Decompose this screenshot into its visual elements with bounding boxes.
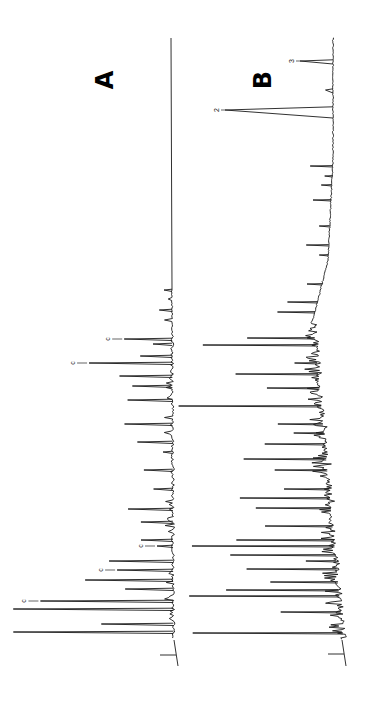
trace-a-peak [128, 399, 173, 401]
trace-a-peak [153, 343, 172, 345]
trace-b-peak [225, 107, 333, 118]
trace-a-peak [157, 545, 173, 547]
chromatogram-trace-a: ccccc [13, 38, 178, 666]
trace-b-peak [226, 590, 339, 591]
peak-label-c: c [104, 337, 111, 341]
trace-b-peak [319, 255, 328, 256]
trace-b-peak [247, 338, 314, 339]
trace-b-start [342, 640, 346, 666]
trace-b-peak [326, 89, 334, 93]
trace-a-peak [124, 338, 172, 340]
trace-b-peak [288, 302, 318, 303]
trace-b-peak [247, 569, 337, 570]
trace-b-peak [189, 596, 339, 597]
trace-b-peak [295, 363, 318, 364]
trace-a-peak [159, 309, 172, 311]
trace-b-peak [281, 612, 341, 613]
trace-b-peak [325, 176, 333, 177]
trace-a-peak [164, 289, 172, 291]
trace-a-peak [13, 608, 173, 610]
trace-a-start [174, 640, 178, 666]
trace-b-peak [203, 345, 316, 346]
trace-b-peak [270, 582, 338, 583]
trace-a-peak [163, 451, 173, 453]
chromatogram-figure: A B ccccc 23 [0, 0, 368, 706]
peak-label-3: 3 [288, 59, 295, 63]
peak-label-c: c [69, 361, 76, 365]
trace-a-peak [89, 362, 172, 364]
trace-b-peak [284, 489, 329, 490]
trace-b-peak [300, 60, 333, 64]
trace-a-peak [132, 385, 172, 387]
trace-a-peak [13, 631, 173, 633]
trace-b-peak [306, 245, 329, 246]
trace-b-peak [230, 555, 335, 556]
trace-a-peak [140, 355, 172, 357]
peak-label-c: c [20, 599, 27, 603]
trace-a-baseline [164, 290, 175, 638]
trace-b-peak [244, 459, 326, 460]
trace-a-peak [128, 508, 173, 510]
chromatogram-trace-b: 23 [179, 38, 347, 666]
trace-b-peak [265, 526, 333, 527]
panel-label-b: B [249, 71, 277, 89]
trace-b-peak [319, 226, 330, 227]
peak-label-c: c [97, 568, 104, 572]
trace-a-peak [120, 375, 173, 377]
trace-b-peak [256, 508, 331, 509]
trace-b-peak [236, 374, 319, 375]
trace-b-peak [265, 444, 325, 445]
trace-b-peak [236, 540, 334, 541]
trace-a-peak [109, 560, 173, 562]
trace-a-peak [141, 521, 173, 523]
trace-b-peak [307, 284, 322, 285]
trace-b-peak [179, 406, 322, 407]
trace-b-peak [306, 561, 336, 562]
trace-a-peaks [13, 289, 173, 633]
trace-b-peak [192, 546, 335, 547]
trace-a-peak [117, 569, 173, 571]
trace-b-peak [313, 200, 331, 201]
trace-a-peak [125, 423, 173, 425]
trace-a-peak [154, 488, 173, 490]
panel-label-a: A [91, 70, 119, 89]
trace-a-baseline-late [171, 38, 172, 290]
trace-b-peak [278, 424, 323, 425]
trace-a-peak [40, 600, 173, 602]
trace-a-peak [137, 441, 172, 443]
peak-label-c: c [137, 544, 144, 548]
trace-b-peak [240, 498, 330, 499]
trace-a-peak [125, 588, 173, 590]
trace-b-peak [310, 166, 333, 167]
peak-label-2: 2 [213, 108, 220, 112]
trace-a-peak [85, 579, 173, 581]
trace-a-peak [101, 623, 173, 625]
trace-b-peak [193, 633, 343, 634]
trace-a-peak [144, 469, 173, 471]
trace-b-peak [321, 185, 332, 186]
trace-a-peak [141, 539, 173, 541]
trace-b-peak [278, 312, 316, 313]
trace-b-peaks [179, 60, 343, 634]
